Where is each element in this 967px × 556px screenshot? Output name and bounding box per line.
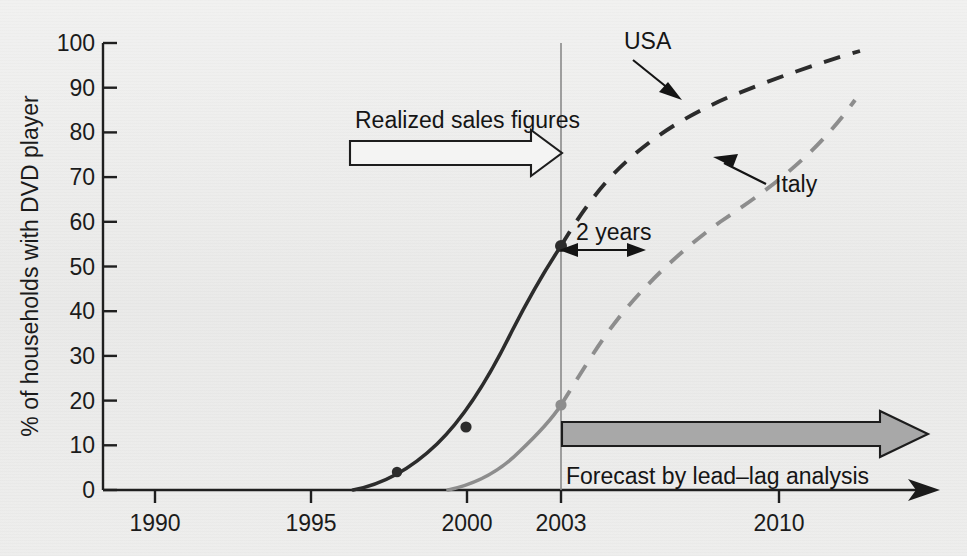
x-tick-labels: 1990 1995 2000 2003 2010 <box>129 510 804 536</box>
y-tick-90: 90 <box>69 75 95 101</box>
realized-sales-annotation: Realized sales figures <box>350 107 580 176</box>
usa-data-point-2000 <box>460 421 471 432</box>
chart-canvas: 100 90 80 70 60 50 40 30 20 10 0 % of ho… <box>0 0 967 556</box>
y-tick-10: 10 <box>69 432 95 458</box>
y-tick-100: 100 <box>57 30 95 56</box>
x-tick-2003: 2003 <box>535 510 586 536</box>
forecast-annotation: Forecast by lead–lag analysis <box>562 411 928 489</box>
x-tick-1990: 1990 <box>129 510 180 536</box>
italy-arrowhead-icon <box>713 154 738 167</box>
x-tick-1995: 1995 <box>285 510 336 536</box>
realized-sales-label: Realized sales figures <box>355 107 580 133</box>
dvd-adoption-chart: 100 90 80 70 60 50 40 30 20 10 0 % of ho… <box>0 0 967 556</box>
forecast-label: Forecast by lead–lag analysis <box>566 463 869 489</box>
y-axis <box>103 43 117 490</box>
italy-realized-curve <box>448 405 561 490</box>
usa-realized-curve <box>353 246 561 490</box>
x-tick-2010: 2010 <box>753 510 804 536</box>
usa-data-point-1997 <box>392 467 402 477</box>
y-tick-70: 70 <box>69 164 95 190</box>
usa-label: USA <box>624 28 672 54</box>
y-tick-0: 0 <box>82 477 95 503</box>
forecast-arrow-icon <box>562 411 928 457</box>
lag-measure-annotation: 2 years <box>559 219 651 257</box>
y-tick-labels: 100 90 80 70 60 50 40 30 20 10 0 <box>57 30 95 503</box>
y-tick-80: 80 <box>69 119 95 145</box>
y-tick-20: 20 <box>69 388 95 414</box>
italy-callout: Italy <box>713 154 818 197</box>
italy-label: Italy <box>775 171 818 197</box>
y-tick-60: 60 <box>69 209 95 235</box>
lag-arrowhead-right-icon <box>627 243 646 257</box>
lag-label: 2 years <box>576 219 651 245</box>
y-tick-30: 30 <box>69 343 95 369</box>
y-tick-40: 40 <box>69 298 95 324</box>
usa-callout: USA <box>624 28 682 100</box>
italy-data-point-2003 <box>555 399 566 410</box>
y-tick-50: 50 <box>69 254 95 280</box>
realized-arrow-icon <box>350 130 562 176</box>
italy-forecast-curve <box>561 100 855 405</box>
y-axis-title: % of households with DVD player <box>17 95 43 437</box>
x-tick-2000: 2000 <box>441 510 492 536</box>
